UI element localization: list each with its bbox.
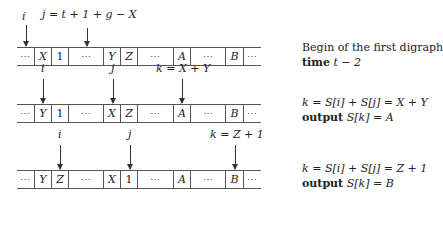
array-cell: 1 (52, 105, 69, 122)
panel-description: k = S[i] + S[j] = X + Y output S[k] = A (302, 95, 428, 125)
array-cell: B (226, 171, 244, 188)
pointer-i-arrow (43, 79, 44, 103)
panel-2: i j k = X + Y ⋯ Y 1 ⋯ X Z ⋯ A ⋯ B ⋯ k = … (0, 57, 417, 132)
array-strip: ⋯ Y 1 ⋯ X Z ⋯ A ⋯ B ⋯ (17, 104, 261, 123)
array-cell: ⋯ (69, 105, 104, 122)
pointer-k-arrow (182, 79, 183, 103)
array-cell: ⋯ (69, 171, 104, 188)
array-cell: ⋯ (191, 171, 226, 188)
array-cell: ⋯ (244, 171, 261, 188)
pointer-i-arrow (60, 145, 61, 169)
array-cell: Y (35, 105, 52, 122)
pointer-j-label: j = t + 1 + g − X (42, 8, 137, 21)
pointer-i-label: i (22, 10, 26, 23)
panel-3: i j k = Z + 1 ⋯ Y Z ⋯ X 1 ⋯ A ⋯ B ⋯ k = … (0, 123, 417, 198)
array-cell: A (174, 171, 191, 188)
pointer-i-arrow (26, 25, 27, 46)
pointer-j-arrow (130, 145, 131, 169)
array-cell: ⋯ (191, 105, 226, 122)
array-strip: ⋯ Y Z ⋯ X 1 ⋯ A ⋯ B ⋯ (17, 170, 261, 189)
description-keyword: output (302, 177, 343, 190)
description-expr: S[k] = B (347, 177, 394, 190)
pointer-j-label: j (128, 128, 131, 141)
array-cell: X (104, 105, 121, 122)
array-cell: ⋯ (244, 105, 261, 122)
pointer-k-label: k = Z + 1 (210, 128, 264, 141)
array-cell: A (174, 105, 191, 122)
pointer-i-label: i (58, 128, 62, 141)
pointer-k-arrow (235, 145, 236, 169)
description-line-1: k = S[i] + S[j] = Z + 1 (302, 161, 427, 176)
array-cell: ⋯ (17, 105, 35, 122)
array-cell: X (104, 171, 121, 188)
array-cell: Y (35, 171, 52, 188)
array-cell: B (226, 105, 244, 122)
pointer-j-arrow (87, 28, 88, 46)
array-cell: Z (52, 171, 69, 188)
array-cell: ⋯ (138, 105, 174, 122)
array-cell: 1 (121, 171, 138, 188)
array-cell: ⋯ (17, 171, 35, 188)
pointer-j-label: j (111, 62, 114, 75)
array-cell: Z (121, 105, 138, 122)
pointer-k-label: k = X + Y (156, 62, 210, 75)
array-cell: ⋯ (138, 171, 174, 188)
description-line-1: k = S[i] + S[j] = X + Y (302, 95, 428, 110)
pointer-j-arrow (113, 79, 114, 103)
description-line-1: Begin of the first digraph (302, 40, 443, 55)
panel-description: k = S[i] + S[j] = Z + 1 output S[k] = B (302, 161, 427, 191)
pointer-i-label: i (41, 62, 45, 75)
